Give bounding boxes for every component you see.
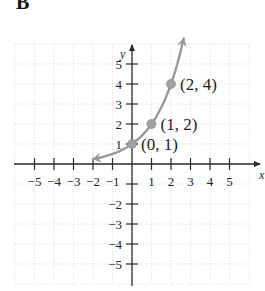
y-tick-label: −5 [108,257,122,272]
x-tick-label: 4 [207,174,214,189]
data-point-label: (0, 1) [141,135,178,154]
y-tick-label: −4 [108,237,122,252]
data-point-marker [166,79,175,88]
data-point-label: (1, 2) [161,115,198,134]
y-tick-label: 4 [116,77,123,92]
y-tick-label: −3 [108,217,122,232]
x-tick-label: −2 [86,174,100,189]
x-tick-label: 1 [148,174,155,189]
x-tick-label: −4 [47,174,61,189]
y-tick-label: 5 [116,57,123,72]
y-tick-label: 2 [116,117,123,132]
x-axis-label: x [258,168,265,182]
x-tick-label: −3 [67,174,81,189]
axes: xy [14,45,265,286]
panel-label: B [16,0,29,14]
x-tick-label: 2 [168,174,175,189]
data-point-label: (2, 4) [180,75,217,94]
x-tick-label: 5 [226,174,233,189]
x-tick-label: 3 [187,174,194,189]
x-tick-label: −1 [106,174,120,189]
y-tick-label: −2 [108,197,122,212]
data-point-marker [127,139,136,148]
exponential-plot: xy −5−4−3−2−112345−5−4−3−212345 (0, 1)(1… [0,0,265,291]
y-tick-label: 3 [116,97,123,112]
data-point-marker [147,119,156,128]
graph-figure: B xy −5−4−3−2−112345−5−4−3−212345 (0, 1)… [0,0,265,291]
x-tick-label: −5 [28,174,42,189]
data-points: (0, 1)(1, 2)(2, 4) [127,75,216,154]
